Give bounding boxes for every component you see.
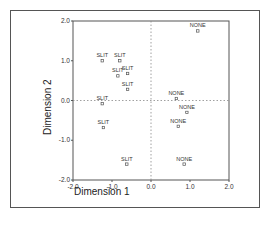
y-tick-label: 0.0: [61, 97, 70, 104]
y-axis-title: Dimension 2: [42, 79, 53, 135]
y-tick-label: -1.0: [59, 136, 71, 143]
y-tick-label: 1.0: [61, 57, 70, 64]
data-point-marker: [175, 97, 177, 99]
data-point-marker: [177, 125, 179, 127]
x-tick-label: 2.0: [224, 183, 233, 190]
data-point-label: NONE: [179, 104, 195, 110]
data-point-marker: [186, 111, 188, 113]
x-tick-label: 0.0: [146, 183, 155, 190]
data-point-label: NONE: [176, 156, 192, 162]
data-point-marker: [117, 75, 119, 77]
y-tick-label: 2.0: [61, 17, 70, 24]
data-point-marker: [119, 60, 121, 62]
data-point-label: NONE: [168, 90, 184, 96]
y-tick-label: -2.0: [59, 176, 71, 183]
data-point-marker: [197, 30, 199, 32]
data-point-label: SLIT: [96, 52, 108, 58]
data-point-label: NONE: [190, 22, 206, 28]
data-point-marker: [183, 163, 185, 165]
x-axis-title: Dimension 1: [74, 186, 130, 197]
data-point-label: SLIT: [96, 95, 108, 101]
data-point-marker: [126, 163, 128, 165]
data-point-label: SLIT: [114, 52, 126, 58]
data-point-label: SLIT: [121, 156, 133, 162]
data-point-marker: [126, 72, 128, 74]
data-point-marker: [101, 60, 103, 62]
data-point-marker: [102, 126, 104, 128]
x-tick-label: 1.0: [185, 183, 194, 190]
data-point-label: SLIT: [122, 65, 134, 71]
data-point-marker: [101, 102, 103, 104]
scatter-plot: -2.0-1.00.01.02.02.01.00.0-1.0-2.0NONESL…: [0, 0, 267, 227]
data-point-label: NONE: [170, 118, 186, 124]
data-point-label: SLIT: [122, 81, 134, 87]
data-point-marker: [126, 88, 128, 90]
data-point-label: SLIT: [98, 119, 110, 125]
